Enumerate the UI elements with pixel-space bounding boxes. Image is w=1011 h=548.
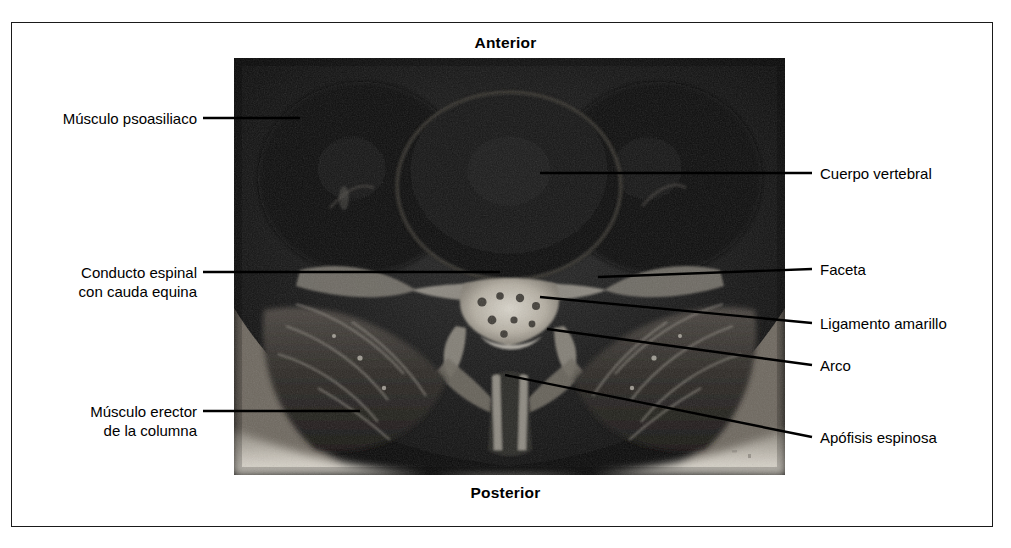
annotation-text-line: Cuerpo vertebral <box>820 164 932 183</box>
annotation-text-line: Músculo erector <box>0 402 197 421</box>
mri-scan-image <box>234 58 785 475</box>
annotation-text-line: Ligamento amarillo <box>820 314 947 333</box>
annotation-text-line: Conducto espinal <box>0 263 197 282</box>
annotation-label-musculo-psoasiliaco: Músculo psoasiliaco <box>0 109 197 128</box>
annotation-text-line: Faceta <box>820 260 866 279</box>
annotation-label-cuerpo-vertebral: Cuerpo vertebral <box>820 164 932 183</box>
annotation-text-line: Arco <box>820 356 851 375</box>
annotation-label-musculo-erector: Músculo erectorde la columna <box>0 402 197 440</box>
annotation-label-conducto-espinal: Conducto espinalcon cauda equina <box>0 263 197 301</box>
annotation-label-arco: Arco <box>820 356 851 375</box>
annotation-text-line: Músculo psoasiliaco <box>0 109 197 128</box>
annotation-text-line: con cauda equina <box>0 282 197 301</box>
annotation-text-line: de la columna <box>0 421 197 440</box>
mri-scan-graphic <box>234 58 785 475</box>
annotation-label-apofisis-espinosa: Apófisis espinosa <box>820 428 937 447</box>
annotation-text-line: Apófisis espinosa <box>820 428 937 447</box>
annotation-label-faceta: Faceta <box>820 260 866 279</box>
orientation-label-posterior: Posterior <box>11 484 1000 502</box>
annotation-label-ligamento-amarillo: Ligamento amarillo <box>820 314 947 333</box>
orientation-label-anterior: Anterior <box>11 34 1000 52</box>
figure-container: Anterior Posterior <box>0 0 1011 548</box>
